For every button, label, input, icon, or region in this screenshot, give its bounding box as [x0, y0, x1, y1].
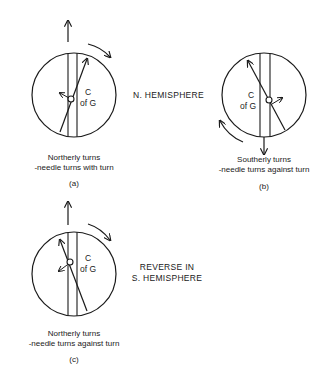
cg-force-arrow-icon: [272, 98, 282, 104]
sublabel: (a): [69, 179, 79, 188]
caption-line2: -needle turns against turn: [29, 339, 120, 348]
pivot-point: [266, 97, 272, 103]
cg-force-arrow-icon: [59, 265, 67, 271]
n-hemisphere-label: N. HEMISPHERE: [133, 90, 204, 100]
reverse-label-line1: REVERSE IN: [140, 262, 195, 272]
compass-bowl: [32, 232, 116, 316]
caption-line2: -needle turns against turn: [219, 165, 310, 174]
compass-turning-error-diagram: C of G Northerly turns -needle turns wit…: [0, 0, 335, 375]
caption-line1: Southerly turns: [237, 155, 291, 164]
cg-label-top: C: [248, 90, 254, 100]
pivot-point: [68, 96, 74, 102]
panel-a: C of G Northerly turns -needle turns wit…: [32, 21, 116, 188]
caption-line1: Northerly turns: [48, 153, 100, 162]
reverse-label-line2: S. HEMISPHERE: [132, 273, 203, 283]
cg-label-top: C: [85, 87, 91, 97]
panel-b: C of G Southerly turns -needle turns aga…: [219, 53, 310, 191]
cg-label-bottom: of G: [80, 98, 96, 108]
needle-arrow-icon: [60, 240, 87, 311]
caption-line2: -needle turns with turn: [34, 163, 113, 172]
caption-line1: Northerly turns: [48, 329, 100, 338]
sublabel: (c): [69, 355, 79, 364]
turn-arrow-clockwise-icon: [88, 224, 110, 240]
pivot-point: [67, 259, 73, 265]
cg-label-bottom: of G: [80, 264, 96, 274]
cg-label-bottom: of G: [240, 101, 256, 111]
sublabel: (b): [259, 182, 269, 191]
turn-arrow-counterclockwise-icon: [220, 121, 243, 142]
compass-bowl: [222, 53, 306, 137]
turn-arrow-clockwise-icon: [88, 44, 110, 57]
panel-c: C of G Northerly turns -needle turns aga…: [29, 202, 120, 364]
cg-label-top: C: [85, 253, 91, 263]
